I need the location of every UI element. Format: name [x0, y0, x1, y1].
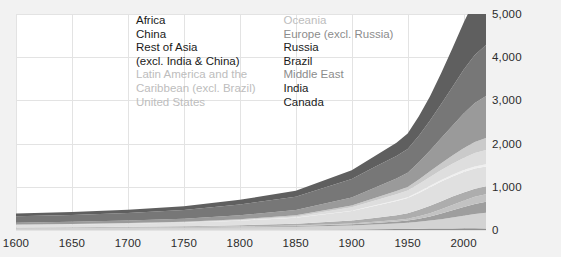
- x-tick-label-1650: 1650: [59, 237, 85, 249]
- x-tick-label-1950: 1950: [394, 237, 420, 249]
- x-tick-label-1900: 1900: [339, 237, 365, 249]
- x-tick-label-1700: 1700: [115, 237, 141, 249]
- x-tick-label-1800: 1800: [227, 237, 253, 249]
- y-tick-label-0: 0: [492, 224, 499, 236]
- y-tick-label-3000: 3,000: [492, 94, 522, 106]
- y-tick-label-2000: 2,000: [492, 138, 522, 150]
- y-tick-label-4000: 4,000: [492, 51, 522, 63]
- stacked-area-series: [16, 14, 486, 230]
- x-tick-label-1750: 1750: [171, 237, 197, 249]
- y-tick-label-5000: 5,000: [492, 8, 522, 20]
- plot-area: [16, 14, 486, 230]
- gridline-y-0: [16, 230, 486, 231]
- x-tick-label-1850: 1850: [283, 237, 309, 249]
- x-tick-label-1600: 1600: [3, 237, 29, 249]
- x-tick-label-2000: 2000: [450, 237, 476, 249]
- chart-screenshot: 01,0002,0003,0004,0005,000 1600165017001…: [0, 0, 561, 257]
- y-tick-label-1000: 1,000: [492, 181, 522, 193]
